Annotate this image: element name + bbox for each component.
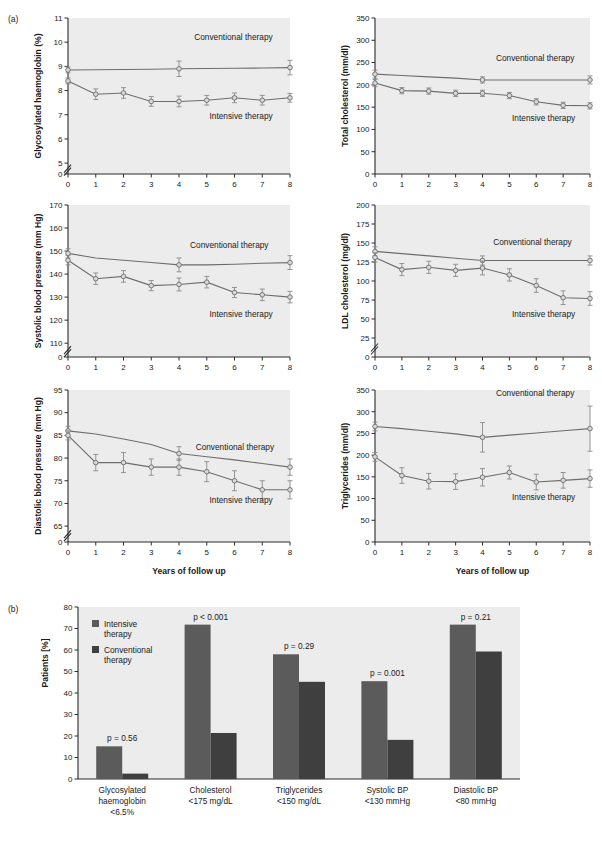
y-tick-label: 150 — [356, 103, 370, 112]
y-axis-title: Diastolic blood pressure (mm Hg) — [33, 397, 43, 535]
series-label: Intensive therapy — [210, 309, 274, 319]
data-marker — [66, 433, 71, 438]
y-tick-label: 50 — [361, 516, 370, 525]
chart-patients-reaching-target: 01020304050607080Patients [%]p = 0.56Gly… — [40, 603, 520, 817]
data-marker — [561, 103, 566, 108]
series-label: Conventional therapy — [196, 442, 275, 452]
data-marker — [453, 268, 458, 273]
series-label: Conventional therapy — [190, 240, 269, 250]
data-marker — [480, 475, 485, 480]
y-tick-label: 150 — [356, 239, 370, 248]
x-tick-label: 8 — [588, 548, 593, 557]
data-marker — [400, 267, 405, 272]
bar-conventional — [299, 682, 325, 779]
data-marker — [204, 98, 209, 103]
x-tick-label: 1 — [94, 548, 99, 557]
x-tick-label: 6 — [232, 548, 237, 557]
data-marker — [121, 460, 126, 465]
x-tick-label: 6 — [534, 548, 539, 557]
y-tick-label: 120 — [49, 316, 63, 325]
data-marker — [534, 480, 539, 485]
y-tick-label: 200 — [356, 451, 370, 460]
y-tick-label: 8 — [58, 86, 63, 95]
x-tick-label: 0 — [373, 548, 378, 557]
chart-total-cholesterol: 050100150200250300350012345678Total chol… — [340, 14, 593, 189]
y-tick-label: 200 — [356, 81, 370, 90]
category-label: <6.5% — [110, 807, 134, 817]
y-tick-label: 0 — [365, 353, 370, 362]
x-tick-label: 4 — [480, 548, 485, 557]
data-marker — [93, 276, 98, 281]
y-tick-label: 50 — [361, 315, 370, 324]
x-tick-label: 4 — [177, 548, 182, 557]
x-tick-label: 2 — [121, 180, 126, 189]
y-tick-label: 60 — [64, 646, 73, 655]
x-tick-label: 1 — [400, 548, 405, 557]
y-tick-label: 70 — [64, 624, 73, 633]
series-label: Conventional therapy — [493, 237, 572, 247]
data-marker — [373, 424, 378, 429]
x-tick-label: 5 — [507, 180, 512, 189]
category-label: <80 mmHg — [455, 796, 496, 806]
data-marker — [588, 296, 593, 301]
category-label: Triglycerides — [276, 785, 323, 795]
x-tick-label: 3 — [149, 363, 154, 372]
data-marker — [288, 96, 293, 101]
figure-canvas: 0567891011012345678Glycosylated haemoglo… — [0, 0, 602, 847]
data-marker — [204, 280, 209, 285]
bar-conventional — [387, 740, 413, 779]
bar-conventional — [211, 733, 237, 779]
y-tick-label: 11 — [54, 14, 63, 23]
y-tick-label: 300 — [356, 36, 370, 45]
data-marker — [400, 88, 405, 93]
y-tick-label: 50 — [64, 667, 73, 676]
data-marker — [588, 258, 593, 263]
data-marker — [288, 260, 293, 265]
x-tick-label: 0 — [66, 180, 71, 189]
x-tick-label: 2 — [427, 363, 432, 372]
y-tick-label: 0 — [365, 170, 370, 179]
x-tick-label: 0 — [66, 363, 71, 372]
x-tick-label: 5 — [205, 180, 210, 189]
y-tick-label: 40 — [64, 689, 73, 698]
x-tick-label: 5 — [205, 548, 210, 557]
x-tick-label: 7 — [260, 548, 265, 557]
data-marker — [260, 293, 265, 298]
data-marker — [288, 65, 293, 70]
y-tick-label: 85 — [54, 431, 63, 440]
x-axis-title: Years of follow up — [456, 566, 530, 576]
data-marker — [121, 91, 126, 96]
x-tick-label: 4 — [480, 180, 485, 189]
data-marker — [177, 465, 182, 470]
y-tick-label: 0 — [58, 353, 63, 362]
p-value-label: p = 0.001 — [370, 668, 405, 678]
category-label: Glycosylated — [98, 785, 146, 795]
data-marker — [260, 98, 265, 103]
bar-intensive — [185, 625, 211, 779]
y-tick-label: 150 — [49, 247, 63, 256]
legend-label: Conventional — [104, 645, 153, 655]
data-marker — [66, 251, 71, 256]
data-marker — [149, 283, 154, 288]
x-tick-label: 7 — [561, 548, 566, 557]
y-tick-label: 10 — [54, 38, 63, 47]
data-marker — [149, 465, 154, 470]
x-tick-label: 2 — [427, 548, 432, 557]
x-tick-label: 0 — [373, 363, 378, 372]
y-tick-label: 75 — [361, 296, 370, 305]
y-tick-label: 300 — [356, 408, 370, 417]
chart-triglycerides: 050100150200250300350012345678Triglyceri… — [340, 386, 593, 576]
bar-intensive — [96, 746, 122, 779]
series-label: Intensive therapy — [210, 111, 274, 121]
data-marker — [260, 488, 265, 493]
y-tick-label: 70 — [54, 499, 63, 508]
x-tick-label: 2 — [121, 363, 126, 372]
x-tick-label: 2 — [121, 548, 126, 557]
category-label: Cholesterol — [190, 785, 232, 795]
y-tick-label: 200 — [356, 201, 370, 210]
x-tick-label: 3 — [149, 548, 154, 557]
y-tick-label: 160 — [49, 224, 63, 233]
x-tick-label: 1 — [94, 363, 99, 372]
data-marker — [480, 266, 485, 271]
y-tick-label: 250 — [356, 58, 370, 67]
